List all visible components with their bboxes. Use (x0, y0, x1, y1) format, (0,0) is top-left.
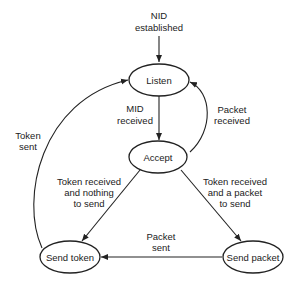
svg-text:and a packet: and a packet (208, 187, 263, 198)
state-listen: Listen (129, 64, 189, 96)
svg-text:to send: to send (73, 198, 104, 209)
state-accept: Accept (129, 141, 187, 173)
svg-text:Packet: Packet (217, 104, 246, 115)
label-packet-received: Packet received (214, 104, 250, 126)
label-packet-sent: Packet sent (146, 231, 175, 253)
state-send-packet: Send packet (223, 241, 283, 273)
svg-text:Token: Token (15, 130, 40, 141)
state-send-token: Send token (40, 241, 100, 273)
start-label: NID established (135, 10, 183, 33)
svg-text:sent: sent (19, 141, 37, 152)
svg-text:Accept: Accept (143, 152, 172, 163)
svg-text:NID: NID (151, 10, 168, 21)
svg-text:established: established (135, 22, 183, 33)
svg-text:sent: sent (152, 242, 170, 253)
label-token-nothing: Token received and nothing to send (57, 176, 121, 209)
edge-token-sent (34, 80, 128, 248)
svg-text:Send token: Send token (46, 252, 94, 263)
svg-text:and nothing: and nothing (64, 187, 114, 198)
state-diagram: NID established MID received Packet rece… (0, 0, 299, 283)
svg-text:Listen: Listen (146, 75, 171, 86)
svg-text:Token received: Token received (203, 176, 267, 187)
label-mid-received: MID received (117, 103, 153, 126)
svg-text:Token received: Token received (57, 176, 121, 187)
svg-text:Send packet: Send packet (227, 252, 280, 263)
label-token-sent: Token sent (15, 130, 40, 152)
svg-text:received: received (117, 115, 153, 126)
svg-text:MID: MID (126, 103, 144, 114)
svg-text:to send: to send (219, 198, 250, 209)
label-token-packet: Token received and a packet to send (203, 176, 267, 209)
svg-text:Packet: Packet (146, 231, 175, 242)
edge-packet-received (190, 82, 207, 152)
svg-text:received: received (214, 115, 250, 126)
